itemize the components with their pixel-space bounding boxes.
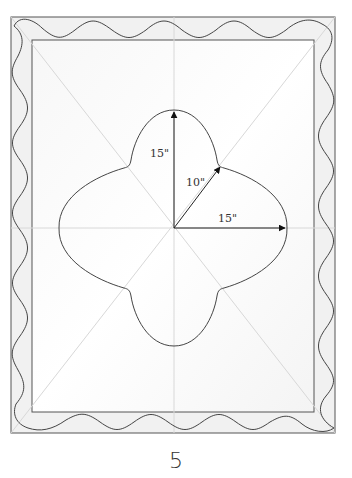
page-number: 5 — [0, 448, 352, 473]
diagonal-radius-label: 10" — [186, 176, 205, 189]
horizontal-radius-label: 15" — [218, 212, 237, 225]
vertical-radius-label: 15" — [150, 147, 169, 160]
quilt-diagram: 15" 10" 15" — [0, 0, 352, 478]
inner-field — [32, 40, 314, 412]
